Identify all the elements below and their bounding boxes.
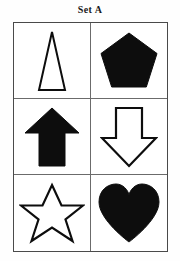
grid-cell-row2-col2: [91, 99, 168, 175]
grid-cell-row3-col1: [14, 175, 91, 251]
set-a-figure: Set A: [0, 0, 180, 261]
grid-cell-row1-col2: [91, 23, 168, 99]
star-outline-icon: [19, 182, 85, 244]
grid-cell-row2-col1: [14, 99, 91, 175]
heart-solid-icon: [96, 182, 162, 244]
pentagon-solid-icon: [98, 30, 160, 92]
grid-cell-row3-col2: [91, 175, 168, 251]
arrow-down-outline-icon: [100, 105, 158, 169]
arrow-up-solid-icon: [23, 105, 81, 169]
grid-cell-row1-col1: [14, 23, 91, 99]
page-title: Set A: [0, 4, 180, 16]
triangle-outline-icon: [17, 28, 87, 94]
shape-grid: [13, 22, 168, 252]
